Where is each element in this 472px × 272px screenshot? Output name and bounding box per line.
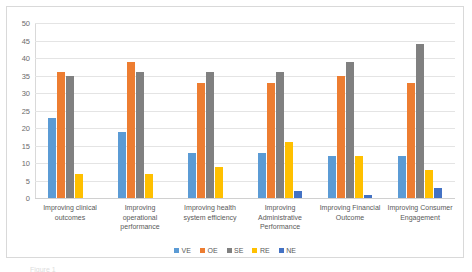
bar-group <box>315 23 385 198</box>
y-axis-tick-label: 5 <box>26 178 30 186</box>
bar-re[interactable] <box>285 142 293 198</box>
x-axis-category-label: Improving Administrative Performance <box>245 203 315 245</box>
y-axis-tick-label: 15 <box>22 143 30 151</box>
legend-swatch-icon <box>252 248 257 253</box>
bar-groups <box>35 23 455 198</box>
bar-oe[interactable] <box>127 62 135 199</box>
bar-oe[interactable] <box>57 72 65 198</box>
bar-se[interactable] <box>206 72 214 198</box>
chart-container: 05101520253035404550 Improving clinical … <box>6 6 464 258</box>
legend-swatch-icon <box>279 248 284 253</box>
bar-re[interactable] <box>425 170 433 198</box>
x-axis-category-label: Improving health system efficiency <box>175 203 245 245</box>
legend-swatch-icon <box>200 248 205 253</box>
x-axis-category-label: Improving operational performance <box>105 203 175 245</box>
legend-item-ve[interactable]: VE <box>174 247 191 254</box>
plot-area: 05101520253035404550 <box>35 23 455 198</box>
legend-swatch-icon <box>227 248 232 253</box>
bar-ve[interactable] <box>328 156 336 198</box>
legend-swatch-icon <box>174 248 179 253</box>
y-axis-tick-label: 50 <box>22 20 30 28</box>
bar-group <box>385 23 455 198</box>
bar-group <box>175 23 245 198</box>
y-axis-tick-label: 10 <box>22 160 30 168</box>
figure-caption: Figure 1 <box>30 266 200 272</box>
x-axis-category-label: Improving Consumer Engagement <box>385 203 455 245</box>
bar-oe[interactable] <box>197 83 205 199</box>
legend-label: SE <box>234 247 243 254</box>
legend-label: VE <box>182 247 191 254</box>
x-axis-category-label: Improving Financial Outcome <box>315 203 385 245</box>
bar-ve[interactable] <box>258 153 266 199</box>
chart-legend: VEOESERENE <box>7 247 463 254</box>
x-axis-category-label: Improving clinical outcomes <box>35 203 105 245</box>
bar-ne[interactable] <box>294 191 302 198</box>
bar-se[interactable] <box>136 72 144 198</box>
bar-oe[interactable] <box>407 83 415 199</box>
bar-ve[interactable] <box>48 118 56 199</box>
y-axis-tick-label: 0 <box>26 195 30 203</box>
legend-item-se[interactable]: SE <box>227 247 244 254</box>
legend-item-ne[interactable]: NE <box>279 247 296 254</box>
gridline: 0 <box>35 198 455 199</box>
y-axis-tick-label: 45 <box>22 38 30 46</box>
y-axis-tick-label: 20 <box>22 125 30 133</box>
bar-ne[interactable] <box>434 188 442 199</box>
legend-label: RE <box>260 247 270 254</box>
bar-group <box>105 23 175 198</box>
bar-re[interactable] <box>215 167 223 199</box>
bar-se[interactable] <box>416 44 424 198</box>
bar-re[interactable] <box>75 174 83 199</box>
bar-group <box>35 23 105 198</box>
legend-label: OE <box>207 247 217 254</box>
bar-re[interactable] <box>145 174 153 199</box>
bar-re[interactable] <box>355 156 363 198</box>
bar-group <box>245 23 315 198</box>
bar-ve[interactable] <box>118 132 126 199</box>
y-axis-tick-label: 40 <box>22 55 30 63</box>
bar-oe[interactable] <box>267 83 275 199</box>
bar-ve[interactable] <box>188 153 196 199</box>
y-axis-tick-label: 35 <box>22 73 30 81</box>
legend-item-re[interactable]: RE <box>252 247 269 254</box>
bar-oe[interactable] <box>337 76 345 199</box>
bar-se[interactable] <box>66 76 74 199</box>
y-axis-tick-label: 30 <box>22 90 30 98</box>
legend-label: NE <box>286 247 296 254</box>
x-axis-category-labels: Improving clinical outcomesImproving ope… <box>35 203 455 245</box>
bar-se[interactable] <box>276 72 284 198</box>
bar-ne[interactable] <box>364 195 372 199</box>
y-axis-tick-label: 25 <box>22 108 30 116</box>
legend-item-oe[interactable]: OE <box>200 247 218 254</box>
bar-ve[interactable] <box>398 156 406 198</box>
bar-se[interactable] <box>346 62 354 199</box>
